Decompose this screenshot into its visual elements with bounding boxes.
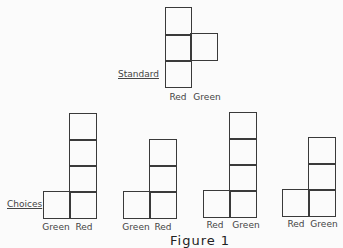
choice-3-right-cell-2 — [229, 164, 257, 192]
choice-2-right-cell-1 — [149, 191, 177, 219]
choice-4-right-cell-2 — [308, 163, 336, 191]
figure-caption: Figure 1 — [170, 233, 230, 248]
choice-3-left-label: Red — [206, 220, 223, 230]
choices-label: Choices — [7, 199, 42, 209]
standard-green-cell-1 — [190, 33, 218, 61]
choice-1-right-cell-3 — [69, 139, 97, 167]
choice-3-left-cell-1 — [203, 190, 231, 218]
choice-1-left-label: Green — [42, 222, 69, 232]
choice-3-right-label: Green — [232, 220, 259, 230]
choice-3-right-cell-1 — [229, 190, 257, 218]
choice-4-right-label: Green — [310, 219, 337, 229]
choice-2-right-label: Red — [154, 222, 171, 232]
choice-4-right-cell-3 — [308, 137, 336, 165]
standard-red-cell-1 — [165, 7, 192, 36]
choice-4-left-cell-1 — [282, 189, 310, 217]
choice-1-right-label: Red — [75, 222, 92, 232]
standard-green-label: Green — [193, 92, 220, 102]
standard-red-cell-2 — [165, 34, 192, 62]
standard-label: Standard — [118, 69, 159, 79]
standard-red-cell-3 — [165, 60, 192, 88]
choice-2-right-cell-2 — [149, 165, 177, 193]
choice-2-left-label: Green — [122, 222, 149, 232]
standard-red-label: Red — [169, 92, 186, 102]
choice-1-right-cell-1 — [69, 191, 97, 219]
choice-1-right-cell-4 — [69, 113, 97, 141]
choice-2-right-cell-3 — [149, 139, 177, 167]
choice-4-left-label: Red — [287, 219, 304, 229]
choice-3-right-cell-3 — [229, 138, 257, 166]
choice-4-right-cell-1 — [308, 189, 336, 217]
choice-2-left-cell-1 — [123, 191, 151, 219]
choice-1-right-cell-2 — [69, 165, 97, 193]
choice-1-left-cell-1 — [43, 191, 71, 219]
choice-3-right-cell-4 — [229, 112, 257, 140]
